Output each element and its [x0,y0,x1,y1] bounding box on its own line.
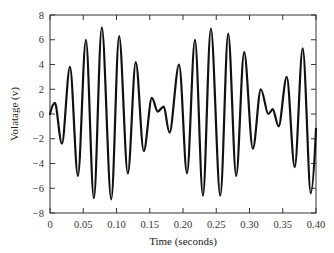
x-tick-label: 0.10 [107,219,125,230]
voltage-curve [50,27,316,199]
y-tick-label: −2 [33,133,44,144]
x-tick-label: 0.35 [274,219,292,230]
y-axis-title: Volatage (v) [8,87,21,141]
y-tick-label: 6 [39,34,44,45]
x-tick-label: 0 [47,219,52,230]
x-tick-label: 0.25 [207,219,225,230]
y-tick-label: 0 [39,109,44,120]
x-tick-label: 0.15 [141,219,159,230]
x-tick-label: 0.05 [74,219,92,230]
x-tick-label: 0.40 [307,219,325,230]
y-tick-label: 2 [39,84,44,95]
y-tick-label: −6 [33,183,44,194]
y-tick-label: 4 [39,59,45,70]
x-axis-title: Time (seconds) [149,235,217,248]
voltage-time-chart: 00.050.100.150.200.250.300.350.4086420−2… [0,0,334,253]
x-tick-label: 0.20 [174,219,192,230]
y-tick-label: −8 [33,208,44,219]
x-tick-label: 0.30 [240,219,258,230]
y-tick-label: 8 [39,10,44,21]
y-tick-label: −4 [33,158,45,169]
